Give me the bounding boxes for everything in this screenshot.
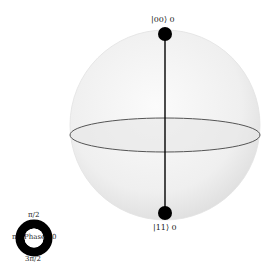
phase-label-3pi-over-2: 3π/2 [25,256,41,263]
state-dot-00 [158,27,172,41]
qsphere-canvas [0,0,273,266]
phase-label-pi-over-2: π/2 [28,212,39,219]
phase-label-zero: 0 [52,234,56,241]
phase-center-label: Phase [24,234,45,241]
state-dot-11 [158,206,172,220]
state-label-11: |11⟩ 0 [153,224,177,232]
state-label-00: |00⟩ 0 [151,16,175,24]
phase-label-pi: π [12,234,17,241]
